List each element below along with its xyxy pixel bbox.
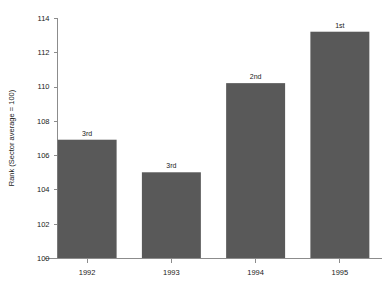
bar-1992: [58, 140, 117, 258]
bar-1993: [142, 172, 201, 258]
bar-label-1994: 2nd: [250, 73, 262, 80]
y-tick-label: 110: [38, 82, 50, 91]
bar-label-1992: 3rd: [82, 130, 92, 137]
y-tick-label: 112: [38, 48, 50, 57]
bar-label-1993: 3rd: [166, 162, 176, 169]
bar-label-1995: 1st: [335, 22, 344, 29]
y-tick-label: 102: [37, 220, 50, 229]
x-tick-label-1992: 1992: [79, 268, 96, 277]
x-tick-label-1994: 1994: [247, 268, 264, 277]
y-tick-label: 108: [37, 117, 50, 126]
x-tick-label-1993: 1993: [163, 268, 180, 277]
y-axis-title: Rank (Sector average = 100): [7, 89, 16, 186]
bar-1994: [226, 83, 285, 258]
bar-chart-figure: 100102104106108110112114 3rd3rd2nd1st 19…: [0, 0, 390, 295]
x-tick-label-1995: 1995: [332, 268, 349, 277]
chart-canvas: 100102104106108110112114 3rd3rd2nd1st 19…: [0, 0, 390, 295]
y-tick-label: 114: [38, 14, 50, 23]
y-tick-label: 100: [37, 254, 50, 263]
y-tick-label: 104: [37, 185, 50, 194]
y-tick-label: 106: [37, 151, 50, 160]
bar-1995: [310, 32, 369, 258]
